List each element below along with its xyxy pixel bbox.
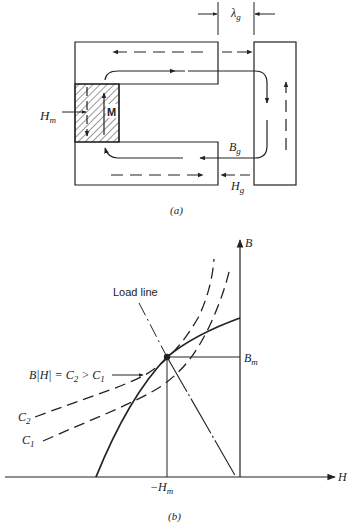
- b-axis-label: B: [245, 236, 253, 250]
- demagnetization-curve: [96, 318, 240, 477]
- magnet-label: M: [107, 106, 116, 118]
- caption-b: (b): [168, 510, 181, 523]
- bm-label: Bm: [244, 351, 258, 367]
- h-axis-label: H: [337, 470, 348, 484]
- magnetic-circuit-diagram: λg M Hm Bg Hg (a): [39, 2, 296, 217]
- load-line-label: Load line: [113, 286, 158, 298]
- figure-canvas: λg M Hm Bg Hg (a): [0, 0, 352, 529]
- keeper-bar: [254, 42, 296, 185]
- energy-product-label: B|H| = C2 > C1: [29, 368, 105, 384]
- hg-label: Hg: [230, 179, 245, 195]
- energy-curve-c2: [35, 259, 214, 417]
- bh-curve-chart: B H Bm −Hm C2 C1 Load line B|H| = C2 > C…: [5, 236, 348, 523]
- gap-dimension: λg: [198, 2, 275, 35]
- bg-label: Bg: [229, 140, 241, 156]
- c2-label: C2: [18, 410, 31, 426]
- caption-a: (a): [170, 204, 183, 217]
- c1-label: C1: [22, 433, 35, 449]
- operating-point: [164, 354, 170, 360]
- neg-hm-label: −Hm: [150, 480, 174, 496]
- load-line: [167, 357, 236, 477]
- gap-length-label: λg: [230, 6, 241, 22]
- hm-label: Hm: [39, 108, 56, 125]
- flux-path-b: [105, 71, 175, 80]
- load-line-extension: [139, 303, 167, 357]
